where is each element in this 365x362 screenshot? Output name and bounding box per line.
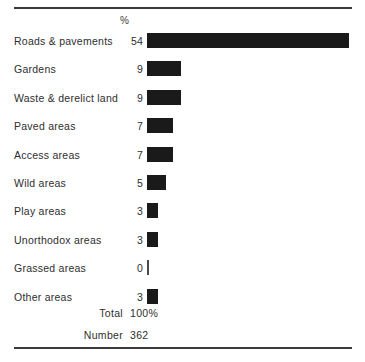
bar-value-label: 0	[96, 262, 143, 274]
bar-category-label: Wild areas	[14, 177, 66, 189]
bar-track	[147, 203, 357, 218]
bar	[147, 33, 349, 48]
bar-value-label: 9	[96, 63, 143, 75]
bar	[147, 147, 173, 162]
bar-row: Roads & pavements54	[0, 31, 365, 59]
bar	[147, 289, 158, 304]
bar	[147, 61, 181, 76]
bar-track	[147, 232, 357, 247]
totals-block: Total 100% Number 362	[0, 307, 365, 351]
bar-row: Paved areas7	[0, 116, 365, 144]
bar-value-label: 3	[96, 205, 143, 217]
bar-category-label: Unorthodox areas	[14, 234, 101, 246]
percent-column-header: %	[120, 15, 129, 26]
number-label: Number	[20, 329, 123, 341]
bar	[147, 203, 158, 218]
bar-category-label: Gardens	[14, 63, 56, 75]
bar	[147, 118, 173, 133]
bar-track	[147, 175, 357, 190]
bar-row: Play areas3	[0, 201, 365, 229]
bar-value-label: 9	[96, 92, 143, 104]
bar-row: Gardens9	[0, 59, 365, 87]
bar	[147, 175, 166, 190]
bar-row: Wild areas5	[0, 173, 365, 201]
bar-track	[147, 289, 357, 304]
bar-row: Grassed areas0	[0, 258, 365, 286]
bar-value-label: 7	[96, 120, 143, 132]
bar-value-label: 54	[96, 35, 143, 47]
bar-category-label: Grassed areas	[14, 262, 86, 274]
bar	[147, 232, 158, 247]
bar-category-label: Other areas	[14, 291, 72, 303]
bar-value-label: 3	[96, 234, 143, 246]
bar-track	[147, 61, 357, 76]
bar-category-label: Paved areas	[14, 120, 76, 132]
bar-row: Waste & derelict land9	[0, 88, 365, 116]
total-value: 100%	[130, 307, 158, 319]
bar-category-label: Access areas	[14, 149, 80, 161]
bottom-rule	[14, 347, 352, 349]
bar-value-label: 3	[96, 291, 143, 303]
bar-track	[147, 118, 357, 133]
number-value: 362	[130, 329, 148, 341]
total-row: Total 100%	[0, 307, 365, 329]
top-rule	[14, 7, 352, 9]
bar	[147, 90, 181, 105]
bar-chart-rows: Roads & pavements54Gardens9Waste & derel…	[0, 31, 365, 315]
bar-row: Unorthodox areas3	[0, 230, 365, 258]
total-label: Total	[20, 307, 123, 319]
bar-track	[147, 33, 357, 48]
bar	[147, 260, 149, 275]
bar-track	[147, 147, 357, 162]
bar-category-label: Play areas	[14, 205, 66, 217]
bar-row: Access areas7	[0, 145, 365, 173]
bar-value-label: 7	[96, 149, 143, 161]
bar-track	[147, 260, 357, 275]
bar-track	[147, 90, 357, 105]
bar-value-label: 5	[96, 177, 143, 189]
